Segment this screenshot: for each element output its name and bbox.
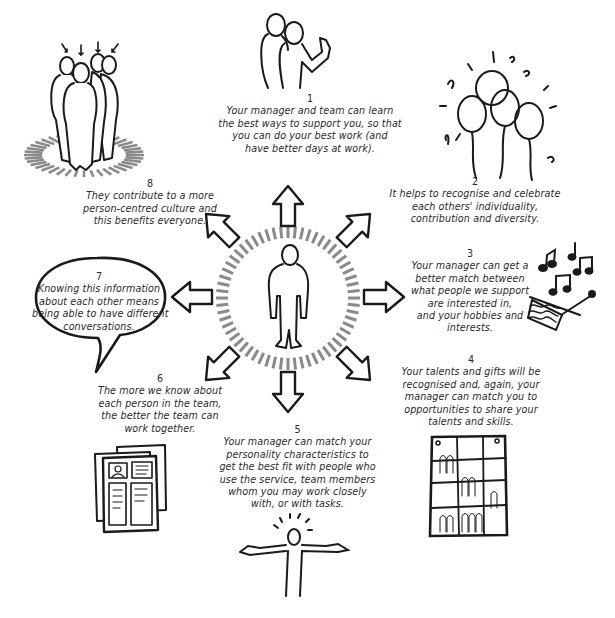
text-line: conversations. bbox=[32, 321, 166, 333]
text-line: whom you may work closely bbox=[195, 486, 400, 498]
text-line: use the service, team members bbox=[195, 474, 400, 486]
text-line: better match between bbox=[405, 273, 535, 285]
item-7-text: 7 Knowing this information about each ot… bbox=[32, 271, 166, 333]
text-line: The more we know about bbox=[90, 385, 230, 397]
text-line: you can do your best work (and bbox=[205, 130, 415, 142]
standing-person-icon bbox=[269, 245, 308, 348]
thumbs-up-colleagues-icon bbox=[261, 14, 330, 88]
text-line: this benefits everyone. bbox=[70, 215, 230, 227]
item-8-text: 8 They contribute to a more person-centr… bbox=[70, 178, 230, 228]
text-line: They contribute to a more bbox=[70, 190, 230, 202]
text-line: personality characteristics to bbox=[195, 449, 400, 461]
text-line: recognised and, again, your bbox=[390, 379, 552, 391]
item-number: 4 bbox=[390, 354, 552, 366]
text-line: get the best fit with people who bbox=[195, 461, 400, 473]
text-line: interests. bbox=[405, 322, 535, 334]
item-number: 3 bbox=[405, 248, 535, 260]
rota-board-icon bbox=[430, 436, 507, 536]
item-number: 2 bbox=[375, 176, 575, 188]
text-line: the best ways to support you, so that bbox=[205, 118, 415, 130]
text-line: the better the team can bbox=[90, 410, 230, 422]
item-number: 7 bbox=[32, 271, 166, 283]
text-line: are interested in, bbox=[405, 298, 535, 310]
text-line: Your manager and team can learn bbox=[205, 105, 415, 117]
profile-documents-icon bbox=[95, 445, 166, 532]
group-spotlight-icon bbox=[24, 42, 144, 177]
text-line: being able to have different bbox=[32, 308, 166, 320]
text-line: each person in the team, bbox=[90, 398, 230, 410]
text-line: about each other means bbox=[32, 296, 166, 308]
item-1-text: 1 Your manager and team can learn the be… bbox=[205, 93, 415, 155]
text-line: each others' individuality, bbox=[375, 201, 575, 213]
item-6-text: 6 The more we know about each person in … bbox=[90, 373, 230, 435]
balloons-icon bbox=[440, 52, 556, 180]
text-line: what people we support bbox=[405, 285, 535, 297]
item-number: 6 bbox=[90, 373, 230, 385]
text-line: have better days at work). bbox=[205, 143, 415, 155]
text-line: Your talents and gifts will be bbox=[390, 366, 552, 378]
text-line: talents and skills. bbox=[390, 416, 552, 428]
text-line: It helps to recognise and celebrate bbox=[375, 188, 575, 200]
item-5-text: 5 Your manager can match your personalit… bbox=[195, 424, 400, 511]
item-3-text: 3 Your manager can get a better match be… bbox=[405, 248, 535, 335]
centre-dash-ring bbox=[216, 226, 360, 370]
text-line: manager can match you to bbox=[390, 391, 552, 403]
text-line: contribution and diversity. bbox=[375, 213, 575, 225]
text-line: Knowing this information bbox=[32, 283, 166, 295]
text-line: opportunities to share your bbox=[390, 404, 552, 416]
text-line: Your manager can get a bbox=[405, 260, 535, 272]
open-arms-person-icon bbox=[240, 514, 348, 596]
item-2-text: 2 It helps to recognise and celebrate ea… bbox=[375, 176, 575, 226]
music-knitting-icon bbox=[528, 243, 595, 330]
text-line: with, or with tasks. bbox=[195, 498, 400, 510]
text-line: Your manager can match your bbox=[195, 436, 400, 448]
text-line: person-centred culture and bbox=[70, 203, 230, 215]
item-number: 8 bbox=[70, 178, 230, 190]
text-line: work together. bbox=[90, 423, 230, 435]
item-4-text: 4 Your talents and gifts will be recogni… bbox=[390, 354, 552, 428]
text-line: and your hobbies and bbox=[405, 310, 535, 322]
item-number: 1 bbox=[205, 93, 415, 105]
